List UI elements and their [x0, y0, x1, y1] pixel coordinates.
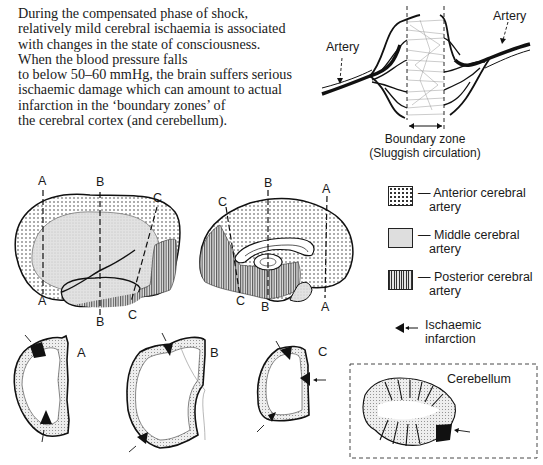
legend-label: artery: [418, 284, 533, 298]
infarct-wedge: [436, 424, 452, 442]
legend-infarct-icon: [395, 323, 418, 333]
legend-label: artery: [418, 242, 519, 256]
lateral-hemisphere-view: A A B B C C: [15, 174, 180, 329]
section-label-b-top: B: [96, 175, 104, 189]
stippled-swatch: [388, 228, 413, 248]
boundary-zone-diagram: Artery Artery Boundary zone (Sluggish ci…: [322, 6, 530, 160]
legend-label: artery: [418, 200, 526, 214]
legend-label: — Middle cerebral: [418, 228, 519, 242]
section-c-label: C: [318, 344, 327, 359]
boundary-zone-label: Boundary zone: [385, 132, 466, 146]
artery-left-label: Artery: [326, 40, 360, 54]
section-b-label: B: [210, 345, 219, 360]
section-label-a-bottom: A: [321, 300, 330, 314]
legend-label: — Posterior cerebral: [418, 270, 533, 284]
cerebellum-panel: Cerebellum: [350, 364, 537, 458]
section-label-c-top: C: [153, 191, 162, 205]
medial-hemisphere-view: C C B B A A: [200, 176, 353, 314]
section-label-c-bottom: C: [128, 308, 137, 322]
legend-item-infarction: Ischaemic infarction: [425, 318, 481, 346]
legend-label: Ischaemic: [425, 318, 481, 332]
hatched-swatch: [388, 270, 413, 290]
dotted-swatch: [388, 186, 413, 206]
coronal-section-b: B: [127, 333, 219, 452]
section-label-c-bottom: C: [236, 294, 245, 308]
cerebellum-label: Cerebellum: [447, 372, 511, 386]
section-label-a-bottom: A: [38, 294, 47, 308]
legend-label: — Anterior cerebral: [418, 186, 526, 200]
artery-right-label: Artery: [493, 9, 527, 23]
section-label-c-top: C: [218, 195, 227, 209]
section-label-b-bottom: B: [96, 315, 104, 329]
section-a-label: A: [77, 345, 86, 360]
boundary-zone-sublabel: (Sluggish circulation): [369, 146, 480, 160]
coronal-section-c: C: [257, 341, 327, 432]
section-label-b-top: B: [264, 176, 272, 190]
section-label-a-top: A: [322, 182, 331, 196]
legend-label: infarction: [425, 332, 476, 346]
coronal-section-a: A: [14, 335, 86, 442]
section-label-a-top: A: [38, 174, 47, 188]
section-label-b-bottom: B: [261, 300, 269, 314]
